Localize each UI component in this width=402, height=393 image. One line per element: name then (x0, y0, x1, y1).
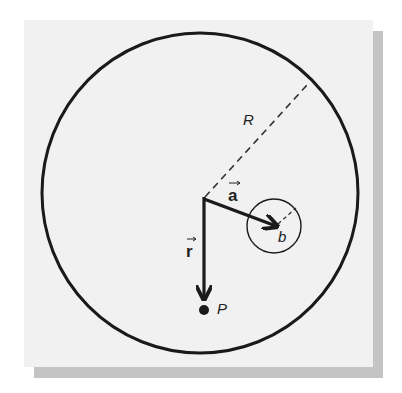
label-r: r (186, 242, 193, 261)
radius-R-dashed-line (205, 85, 307, 197)
label-b: b (278, 228, 286, 245)
large-circle (42, 33, 358, 353)
vector-a-overarrow-icon (229, 181, 240, 185)
label-R: R (243, 111, 254, 128)
vector-a-arrow (204, 199, 276, 226)
point-P-dot (199, 305, 209, 315)
diagram-canvas: R b a r P (0, 0, 402, 393)
vector-r-overarrow-icon (187, 237, 196, 241)
radius-b-dashed-line (278, 208, 296, 224)
label-P: P (217, 300, 227, 317)
label-a: a (228, 186, 238, 205)
